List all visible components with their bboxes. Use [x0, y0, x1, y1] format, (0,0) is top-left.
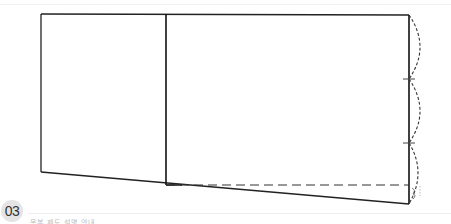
dashed-arc-1 — [409, 15, 420, 79]
caption-text: 옷본 제도 설명 안내 — [30, 217, 95, 224]
dashed-arc-3 — [409, 143, 418, 204]
dashed-arc-2 — [409, 79, 420, 143]
caption-divider — [28, 213, 451, 214]
pattern-diagram — [0, 0, 451, 224]
bottom-edge — [41, 172, 409, 204]
outline-top — [41, 14, 409, 15]
step-number-badge: 03 — [1, 200, 23, 222]
